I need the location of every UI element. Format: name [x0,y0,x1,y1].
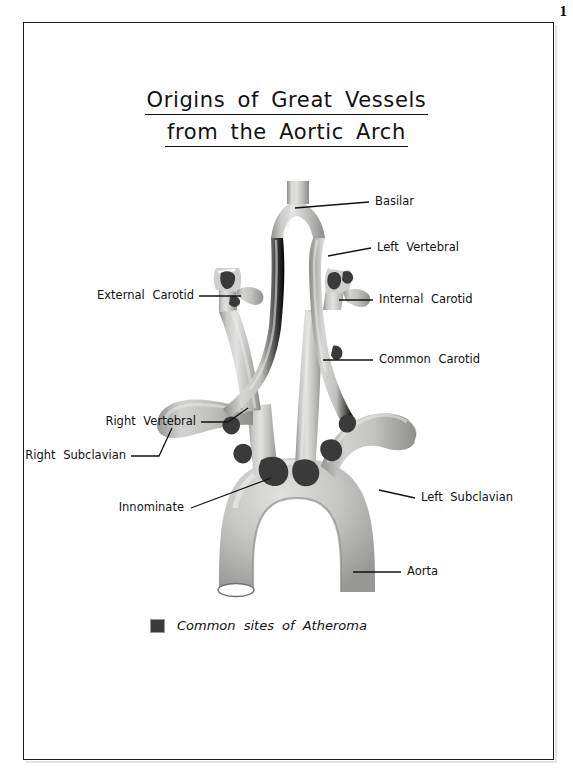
left-external-carotid [343,289,370,307]
leader-left-vertebral [328,248,371,256]
plaque-right-external-carotid [229,296,240,307]
right-carotid-bifurcation [214,268,264,312]
page-title: Origins of Great Vessels from the Aortic… [0,88,573,147]
left-carotid-bifurcation [323,268,370,360]
title-line-1: Origins of Great Vessels [145,88,429,115]
legend: Common sites of Atheroma [150,618,367,633]
leader-left-subclavian [379,490,415,498]
page-number: 1 [560,3,568,20]
plaque-right-subclavian-origin [233,444,252,464]
label-aorta: Aorta [407,566,438,578]
basilar-artery [271,180,325,238]
aortic-arch-figure [23,160,554,630]
page: 1 Origins of Great Vessels from the Aort… [0,0,573,777]
label-external-carotid: External Carotid [97,290,194,302]
label-internal-carotid: Internal Carotid [379,294,473,306]
title-line-2: from the Aortic Arch [165,120,408,147]
vessel-illustration: Basilar Left Vertebral Internal Carotid … [23,160,554,630]
label-innominate: Innominate [119,502,184,514]
label-left-vertebral: Left Vertebral [377,242,459,254]
label-left-subclavian: Left Subclavian [421,492,513,504]
plaque-left-external-carotid [342,271,353,284]
legend-swatch-atheroma [150,619,165,633]
label-right-subclavian: Right Subclavian [25,450,126,462]
label-basilar: Basilar [375,196,414,208]
plaque-left-common-carotid-mid [331,346,342,360]
legend-label: Common sites of Atheroma [177,618,367,633]
label-right-vertebral: Right Vertebral [105,416,196,428]
label-common-carotid: Common Carotid [379,354,480,366]
ascending-aorta-lumen [218,584,254,597]
